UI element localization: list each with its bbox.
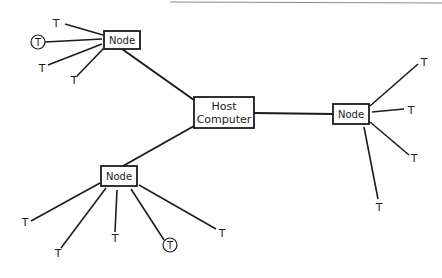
node-label: Node [106, 171, 132, 182]
terminal-label: T [420, 56, 428, 69]
terminal-label: T [54, 247, 62, 260]
node-right: Node [333, 104, 369, 124]
terminal-label: T [111, 232, 119, 245]
terminals-node-right: T T T T [364, 56, 428, 214]
terminal-label: T [38, 62, 46, 75]
terminals-node-bottom-left: T T T T T [21, 183, 226, 260]
node-label: Node [338, 109, 364, 120]
terminal-circled: T [163, 238, 177, 252]
terminal-label: T [70, 74, 78, 87]
host-computer: Host Computer [194, 97, 254, 128]
terminals-node-top-left: T T T T [31, 17, 104, 87]
edge-host-node-right [254, 113, 333, 114]
terminal-label: T [218, 227, 226, 240]
terminal-label: T [375, 201, 383, 214]
node-label: Node [109, 35, 135, 46]
edge-host-node-bottom-left [123, 126, 194, 166]
host-label-line1: Host [211, 100, 237, 113]
edge-host-node-top-left [122, 49, 194, 100]
terminal-label: T [21, 216, 29, 229]
terminal-circled: T [31, 35, 45, 49]
terminal-label: T [166, 240, 174, 251]
network-diagram: T T T T T T T T T T T T T Ho [0, 0, 442, 278]
node-top-left: Node [104, 31, 140, 49]
top-rule [170, 2, 442, 3]
terminal-label: T [52, 17, 60, 30]
terminal-label: T [407, 104, 415, 117]
terminal-label: T [34, 37, 42, 48]
terminal-label: T [410, 152, 418, 165]
node-bottom-left: Node [101, 166, 137, 186]
host-label-line2: Computer [197, 113, 252, 126]
